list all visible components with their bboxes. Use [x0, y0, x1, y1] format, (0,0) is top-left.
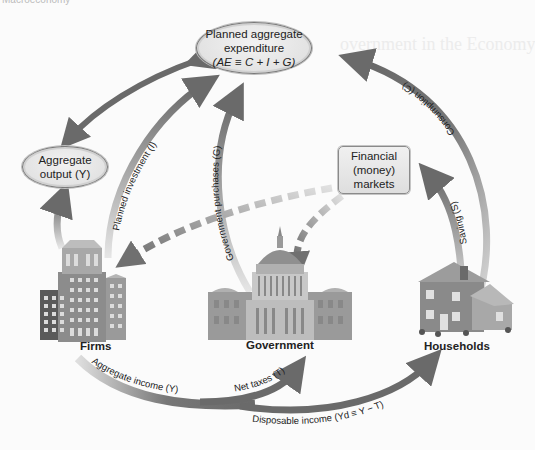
aggregate-output-node: Aggregate output (Y) — [22, 146, 108, 188]
financial-markets-line2: (money) — [353, 163, 395, 177]
households-label: Households — [424, 340, 490, 352]
firms-to-output-arrow — [57, 198, 62, 248]
financial-to-government-dashed-arrow — [297, 196, 342, 262]
financial-markets-line3: markets — [354, 177, 395, 191]
financial-markets-node: Financial (money) markets — [338, 146, 410, 194]
planned-aggregate-expenditure-node: Planned aggregate expenditure (AE ≡ C + … — [196, 22, 312, 74]
households-house-icon — [418, 262, 514, 337]
government-purchases-arrow — [218, 98, 250, 292]
government-label: Government — [246, 339, 314, 351]
firms-label: Firms — [80, 340, 111, 352]
planned-ae-line3: (AE ≡ C + I + G) — [213, 55, 296, 69]
aggregate-output-line2: output (Y) — [40, 167, 91, 181]
consumption-label: Consumption (C) — [399, 81, 456, 138]
disposable-income-arrow — [240, 362, 430, 410]
planned-investment-label: Planned investment (I) — [110, 139, 158, 231]
aggregate-output-line1: Aggregate — [38, 153, 91, 167]
planned-investment-arrow — [108, 84, 205, 258]
financial-markets-line1: Financial — [351, 149, 397, 163]
page-header-fragment: Macroeconomy — [2, 0, 70, 5]
planned-ae-line2: expenditure — [224, 41, 284, 55]
ae-to-output-arrow — [70, 60, 198, 138]
planned-ae-line1: Planned aggregate — [205, 27, 302, 41]
firms-building-icon — [40, 240, 126, 342]
